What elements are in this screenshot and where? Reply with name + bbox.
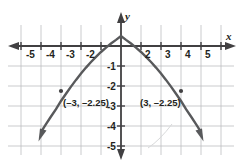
x-tick-label-2: 2 xyxy=(145,50,151,60)
marked-point-right xyxy=(179,89,183,93)
x-tick-label-4: 4 xyxy=(185,50,191,60)
x-tick-label--3: -3 xyxy=(66,50,75,60)
parabola-graph-figure: -5 -4 -3 -2 2 3 4 5 -1 -2 -3 -4 -5 y x (… xyxy=(0,0,242,162)
x-tick-label--2: -2 xyxy=(86,50,95,60)
x-axis xyxy=(8,42,236,50)
x-axis-label: x xyxy=(226,31,232,42)
marked-point-left xyxy=(59,89,63,93)
x-tick-label-3: 3 xyxy=(165,50,171,60)
y-tick-label--1: -1 xyxy=(107,62,116,72)
background-artifact xyxy=(148,124,172,148)
y-tick-label--5: -5 xyxy=(107,142,116,152)
annotation-right-point: (3, –2.25) xyxy=(140,98,181,108)
x-tick-label-5: 5 xyxy=(205,50,211,60)
x-tick-label--4: -4 xyxy=(46,50,55,60)
y-axis-label: y xyxy=(125,11,130,22)
y-tick-label--4: -4 xyxy=(107,122,116,132)
x-tick-label--5: -5 xyxy=(26,50,35,60)
annotation-left-point: (–3, –2.25) xyxy=(63,98,109,108)
graph-canvas xyxy=(0,0,242,162)
y-tick-label--2: -2 xyxy=(107,82,116,92)
